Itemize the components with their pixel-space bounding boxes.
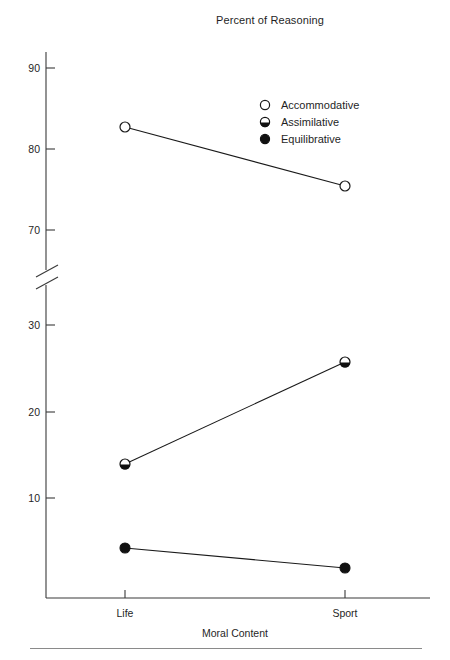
axis-break-slash-lower (36, 277, 58, 289)
y-tick-label-70: 70 (28, 224, 40, 236)
y-tick-label-10: 10 (28, 492, 40, 504)
x-tick-label-sport: Sport (332, 607, 357, 619)
data-point-assimilative-sport (340, 357, 350, 368)
chart-plot-area: 90 80 70 30 20 10 Life (0, 0, 450, 660)
series-assimilative-segment (125, 362, 345, 464)
legend-item-equilibrative: Equilibrative (260, 133, 341, 145)
y-tick-group-30: 30 (28, 319, 55, 331)
legend-label-equilibrative: Equilibrative (281, 133, 341, 145)
data-point-accommodative-sport (340, 181, 350, 191)
axis-break-slash-upper (36, 265, 58, 277)
y-tick-group-80: 80 (28, 143, 55, 155)
legend-marker-open-circle-icon (260, 100, 269, 109)
legend-item-accommodative: Accommodative (260, 99, 359, 111)
x-tick-label-life: Life (117, 607, 134, 619)
figure-container: Percent of Reasoning 90 80 70 30 (0, 0, 450, 660)
data-point-accommodative-life (120, 122, 130, 132)
legend-marker-half-circle-fill (260, 123, 269, 128)
series-assimilative (120, 357, 350, 470)
y-tick-group-90: 90 (28, 62, 55, 74)
y-tick-label-80: 80 (28, 143, 40, 155)
bottom-divider-rule (30, 648, 422, 649)
series-equilibrative-segment (125, 548, 345, 568)
data-point-equilibrative-life (120, 543, 130, 553)
x-tick-group-life: Life (117, 590, 134, 619)
legend-label-assimilative: Assimilative (281, 116, 339, 128)
data-point-equilibrative-sport (340, 563, 350, 573)
series-equilibrative (120, 543, 350, 573)
y-tick-label-30: 30 (28, 319, 40, 331)
y-tick-label-90: 90 (28, 62, 40, 74)
y-tick-group-70: 70 (28, 224, 55, 236)
chart-legend: Accommodative Assimilative Equilibrative (260, 99, 359, 145)
data-point-assimilative-life (120, 459, 130, 470)
x-axis-label: Moral Content (202, 627, 268, 639)
x-tick-group-sport: Sport (332, 590, 357, 619)
legend-marker-filled-circle-icon (260, 134, 269, 143)
legend-item-assimilative: Assimilative (260, 116, 339, 128)
y-tick-group-10: 10 (28, 492, 55, 504)
y-tick-group-20: 20 (28, 406, 55, 418)
y-tick-label-20: 20 (28, 406, 40, 418)
legend-label-accommodative: Accommodative (281, 99, 359, 111)
